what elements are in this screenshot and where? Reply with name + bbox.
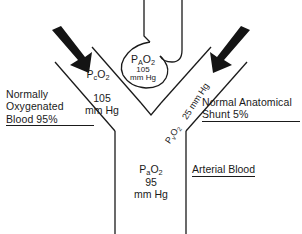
capillary-pco2-symbol: PcO2 <box>70 68 126 81</box>
arterial-pao2-symbol: PaO2 <box>122 163 180 176</box>
right-shunt-label: Normal Anatomical Shunt 5% <box>202 96 300 122</box>
alveolar-po2-symbol: PAO2 <box>118 54 168 66</box>
arterial-pao2-label: PaO2 95 mm Hg <box>122 163 180 200</box>
inner-junction-apex <box>141 103 161 115</box>
diagram-canvas: PAO2 105 mm Hg PcO2 105 mm Hg 25 mm Hg P… <box>0 0 302 234</box>
arterial-pao2-value: 95 <box>122 176 180 188</box>
airway-tube-right-line <box>160 0 182 62</box>
left-blood-label-line1: Normally <box>6 88 94 100</box>
left-blood-label-underline <box>6 125 94 126</box>
right-shunt-label-underline <box>202 121 300 122</box>
right-shunt-label-line1: Normal Anatomical <box>202 96 300 108</box>
arterial-blood-caption-text: Arterial Blood <box>192 163 255 177</box>
right-shunt-label-line2: Shunt 5% <box>202 108 300 120</box>
airway-tube-left-line <box>144 0 150 42</box>
arterial-blood-caption: Arterial Blood <box>192 163 255 177</box>
left-blood-label: Normally Oxygenated Blood 95% <box>6 88 94 126</box>
left-blood-label-line2: Oxygenated <box>6 100 94 112</box>
arterial-pao2-unit: mm Hg <box>122 188 180 200</box>
capillary-pco2-label: PcO2 <box>70 68 126 81</box>
left-blood-label-line3: Blood 95% <box>6 113 94 125</box>
